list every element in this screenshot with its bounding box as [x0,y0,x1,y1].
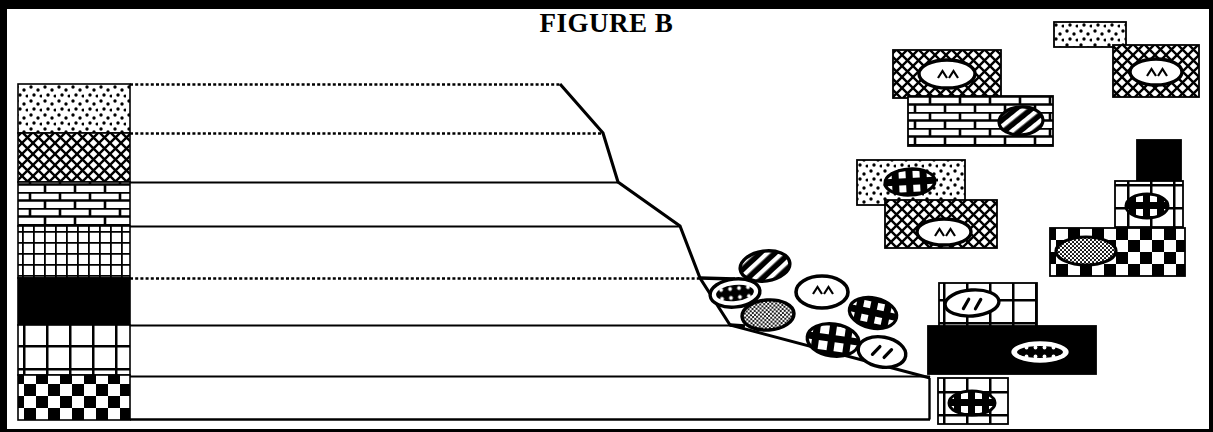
unit-block-crosshatch-1 [893,50,1001,98]
unit-block-crosshatch-2 [1113,45,1199,97]
bed-boundary-lines [130,85,930,420]
layer-swatch-dots [18,84,130,133]
layer-swatch-brick [18,182,130,226]
stepped-erosional-profile [560,84,930,378]
unit-block-dots-1 [857,160,965,205]
pattern-key-column [18,84,130,420]
unit-block-coarse-grid-2 [939,283,1037,328]
unit-block-brick [908,96,1053,146]
sample-ellipse-white-slashes [856,333,908,371]
figure-canvas: FIGURE B [0,0,1213,432]
unit-block-coarse-grid-1 [1115,181,1183,227]
talus-sample-cluster [709,248,909,371]
stratigraphic-diagram [0,0,1213,432]
unit-block-coarse-grid-3 [938,378,1008,424]
unit-block-checkerboard [1050,228,1185,276]
layer-swatch-solid-black [18,278,130,325]
layer-swatch-coarse-grid [18,325,130,375]
unit-block-crosshatch-3 [885,200,997,248]
sample-ellipse-black-checker [805,321,861,360]
layer-swatch-checkerboard [18,375,130,420]
layer-swatch-fine-grid [18,226,130,278]
unit-block-array [857,22,1199,424]
unit-block-solid-black-1 [1137,140,1181,182]
unit-block-solid-black-2 [928,326,1096,374]
unit-block-dots-strip [1054,22,1126,47]
layer-swatch-crosshatch [18,133,130,182]
sample-ellipse-black-white-blocks [846,293,899,332]
sample-ellipse-white-carets [796,276,848,308]
